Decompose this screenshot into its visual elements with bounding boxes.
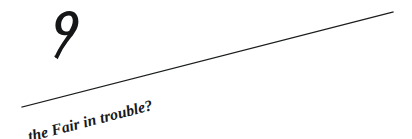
caption: the Fair in trouble? <box>26 96 155 139</box>
caption-text: the Fair in trouble? <box>26 97 154 139</box>
stylized-nine-glyph-tail <box>54 56 58 60</box>
page-canvas: the Fair in trouble? <box>0 0 412 139</box>
stylized-nine-glyph-icon <box>50 8 84 60</box>
stylized-nine-glyph-path <box>55 11 79 59</box>
diagonal-rule-line <box>22 12 393 107</box>
stylized-nine-glyph-svg <box>50 8 84 60</box>
